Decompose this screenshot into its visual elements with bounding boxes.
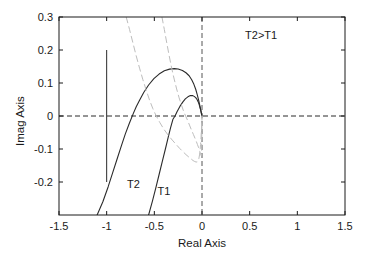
y-tick-label: 0.1 bbox=[38, 77, 53, 89]
x-tick-label: 1.5 bbox=[337, 220, 352, 232]
y-tick-label: 0.2 bbox=[38, 44, 53, 56]
annotation-t1: T1 bbox=[157, 185, 170, 197]
x-tick-label: -0.5 bbox=[145, 220, 164, 232]
y-tick-label: 0.3 bbox=[38, 11, 53, 23]
x-axis-title: Real Axis bbox=[178, 237, 226, 249]
y-tick-label: -0.2 bbox=[34, 176, 53, 188]
y-tick-label: -0.1 bbox=[34, 143, 53, 155]
x-tick-label: -1.5 bbox=[50, 220, 69, 232]
y-axis-title: Imag Axis bbox=[14, 96, 26, 146]
y-tick-label: 0 bbox=[47, 110, 53, 122]
annotation-t2: T2 bbox=[127, 178, 140, 190]
x-tick-label: 1 bbox=[294, 220, 300, 232]
x-tick-label: 0.5 bbox=[242, 220, 257, 232]
nyquist-plot-figure: -1.5-1-0.500.511.5 0.30.20.10-0.1-0.2 Re… bbox=[0, 0, 372, 259]
annotation-t2t1: T2>T1 bbox=[245, 29, 277, 41]
x-tick-label: -1 bbox=[102, 220, 112, 232]
x-tick-label: 0 bbox=[199, 220, 205, 232]
